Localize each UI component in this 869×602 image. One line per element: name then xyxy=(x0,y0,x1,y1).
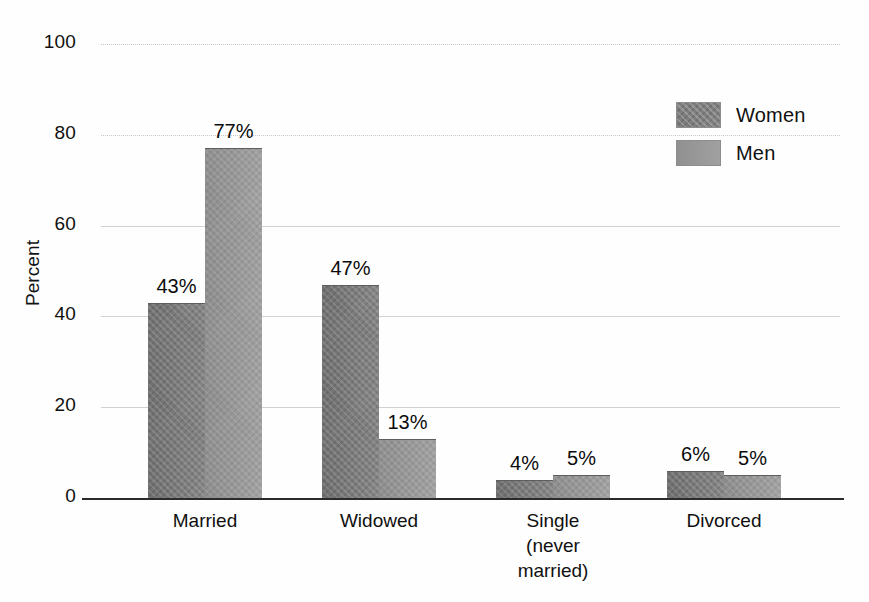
bar-men-divorced[interactable] xyxy=(724,475,781,498)
y-tick-label-100: 100 xyxy=(18,31,76,53)
x-category-label-divorced: Divorced xyxy=(637,508,811,533)
bar-men-widowed[interactable] xyxy=(379,439,436,498)
y-tick-label-20: 20 xyxy=(18,394,76,416)
bar-women-divorced[interactable] xyxy=(667,471,724,498)
y-tick-label-0: 0 xyxy=(18,485,76,507)
legend-swatch-men-icon xyxy=(676,140,721,166)
legend-label-women: Women xyxy=(736,104,806,127)
x-category-label-single: Single (never married) xyxy=(466,508,640,583)
bar-men-single[interactable] xyxy=(553,475,610,498)
bar-value-label: 43% xyxy=(136,275,217,298)
chart-legend: Women Men xyxy=(676,96,856,172)
bar-women-married[interactable] xyxy=(148,303,205,498)
bar-value-label: 4% xyxy=(484,452,565,475)
bar-value-label: 5% xyxy=(712,447,793,470)
y-tick-label-80: 80 xyxy=(18,122,76,144)
bar-men-married[interactable] xyxy=(205,148,262,498)
x-category-label-widowed: Widowed xyxy=(292,508,466,533)
bar-women-single[interactable] xyxy=(496,480,553,498)
legend-item-women[interactable]: Women xyxy=(676,96,856,134)
y-tick-label-40: 40 xyxy=(18,303,76,325)
gridline-20 xyxy=(101,407,840,408)
gridline-60 xyxy=(101,226,840,227)
bar-chart-figure: Percent 020406080100 43%47%4%6%77%13%5%5… xyxy=(0,0,869,602)
gridline-40 xyxy=(101,316,840,317)
bar-value-label: 5% xyxy=(541,447,622,470)
x-category-label-married: Married xyxy=(118,508,292,533)
y-tick-label-60: 60 xyxy=(18,213,76,235)
bar-value-label: 13% xyxy=(367,411,448,434)
legend-item-men[interactable]: Men xyxy=(676,134,856,172)
bar-value-label: 47% xyxy=(310,257,391,280)
legend-swatch-women-icon xyxy=(676,102,721,128)
bar-value-label: 77% xyxy=(193,120,274,143)
x-axis-line xyxy=(82,498,844,500)
legend-label-men: Men xyxy=(736,142,776,165)
bar-value-label: 6% xyxy=(655,443,736,466)
gridline-100 xyxy=(101,44,840,45)
